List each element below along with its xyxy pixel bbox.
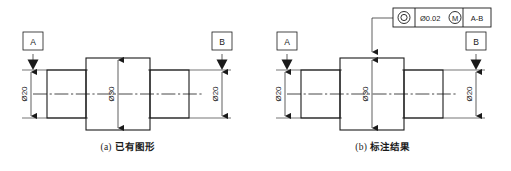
datum-label-a-left-b: A (284, 37, 290, 47)
dimension-left-b-label: Ø20 (274, 86, 283, 102)
datum-b-right-b[interactable]: B (466, 32, 486, 70)
caption-b-index: (b) (355, 142, 367, 152)
datum-a-left-b[interactable]: A (277, 32, 297, 70)
dimension-center-a: Ø30 (107, 60, 118, 128)
datum-label-b-right-b: B (473, 37, 479, 47)
figure-a: Ø20 Ø30 Ø20 A (20, 32, 232, 130)
fcf-datum-reference: A-B (471, 14, 484, 23)
datum-label-a-left: A (30, 37, 36, 47)
dimension-right-b: Ø20 (465, 72, 476, 116)
dimension-right-a-label: Ø20 (211, 86, 220, 102)
dimension-center-b: Ø30 (361, 60, 372, 128)
drawing-canvas: Ø20 Ø30 Ø20 A (0, 0, 511, 171)
dimension-left-a: Ø20 (20, 72, 31, 116)
caption-b-text: 标注结果 (370, 141, 411, 152)
fcf-leader (372, 18, 393, 52)
datum-triangle-b-right (217, 60, 228, 71)
datum-label-b-right: B (219, 37, 225, 47)
caption-figure-b: (b) 标注结果 (255, 139, 511, 153)
dimension-center-a-label: Ø30 (107, 86, 116, 102)
caption-a-index: (a) (101, 142, 112, 152)
dimension-left-a-label: Ø20 (20, 86, 29, 102)
datum-a-left[interactable]: A (23, 32, 43, 70)
figure-b: Ø20 Ø30 Ø20 A B (274, 8, 491, 130)
fcf-material-condition: M (452, 14, 458, 23)
datum-triangle-a-left (28, 60, 39, 71)
caption-figure-a: (a) 已有图形 (0, 139, 256, 153)
dimension-left-b: Ø20 (274, 72, 285, 116)
dimension-center-b-label: Ø30 (361, 86, 370, 102)
dimension-right-a: Ø20 (211, 72, 222, 116)
feature-control-frame[interactable]: Ø0.02 M A-B (393, 8, 491, 27)
datum-triangle-b-right-b (471, 60, 482, 71)
caption-a-text: 已有图形 (115, 141, 156, 152)
datum-triangle-a-left-b (282, 60, 293, 71)
dimension-right-b-label: Ø20 (465, 86, 474, 102)
datum-b-right[interactable]: B (212, 32, 232, 70)
fcf-tolerance-value: Ø0.02 (420, 14, 440, 23)
